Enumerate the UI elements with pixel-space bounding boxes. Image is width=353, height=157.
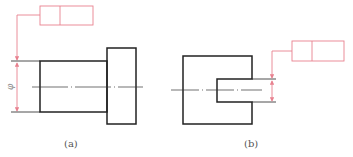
caption-b: (b) [244,138,258,149]
caption-a: (a) [64,138,78,149]
drawing-canvas: φ (a) (b) [0,0,353,157]
figure-a: φ (a) [5,6,143,149]
flange-body [107,48,136,124]
tolerance-frame-b [292,41,344,61]
diameter-symbol: φ [5,83,15,90]
shaft-body [40,61,107,112]
figure-b: (b) [171,41,344,149]
leader-line-b [272,51,292,78]
tolerance-frame-a [40,6,93,25]
leader-line-a [17,15,40,60]
